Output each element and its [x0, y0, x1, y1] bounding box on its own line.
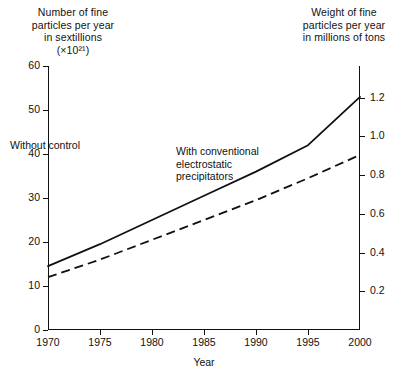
- right-tick-mark: [360, 175, 365, 176]
- x-tick-mark: [308, 330, 309, 335]
- x-tick-mark: [100, 330, 101, 335]
- right-tick-mark: [360, 214, 365, 215]
- x-tick-label: 1990: [234, 336, 278, 348]
- right-tick-label: 0.2: [370, 284, 404, 296]
- x-tick-label: 1995: [286, 336, 330, 348]
- x-tick-label: 1980: [130, 336, 174, 348]
- left-tick-label: 20: [10, 235, 40, 247]
- left-tick-label: 10: [10, 279, 40, 291]
- series-lines: [48, 66, 360, 330]
- x-tick-label: 1970: [26, 336, 70, 348]
- annotation-without-control: Without control: [10, 139, 80, 152]
- right-tick-mark: [360, 136, 365, 137]
- left-tick-label: 30: [10, 191, 40, 203]
- x-tick-label: 1985: [182, 336, 226, 348]
- right-tick-label: 1.2: [370, 91, 404, 103]
- left-tick-label: 50: [10, 103, 40, 115]
- x-tick-mark: [204, 330, 205, 335]
- right-tick-label: 0.6: [370, 207, 404, 219]
- annotation-with-precipitators: With conventional electrostatic precipit…: [176, 145, 259, 183]
- x-tick-mark: [152, 330, 153, 335]
- right-tick-mark: [360, 98, 365, 99]
- left-tick-mark: [43, 330, 48, 331]
- right-tick-mark: [360, 291, 365, 292]
- chart-figure: Number of fine particles per year in sex…: [0, 0, 405, 373]
- right-tick-label: 0.8: [370, 168, 404, 180]
- x-tick-mark: [256, 330, 257, 335]
- left-tick-label: 0: [10, 323, 40, 335]
- right-tick-label: 0.4: [370, 246, 404, 258]
- right-axis-title: Weight of fine particles per year in mil…: [286, 6, 402, 44]
- x-tick-label: 2000: [338, 336, 382, 348]
- left-axis-title: Number of fine particles per year in sex…: [8, 6, 138, 56]
- x-axis-label: Year: [48, 356, 360, 368]
- left-tick-label: 60: [10, 59, 40, 71]
- right-tick-mark: [360, 253, 365, 254]
- x-tick-label: 1975: [78, 336, 122, 348]
- right-tick-label: 1.0: [370, 129, 404, 141]
- plot-area: 0102030405060 0.20.40.60.81.01.2 1970197…: [48, 66, 360, 330]
